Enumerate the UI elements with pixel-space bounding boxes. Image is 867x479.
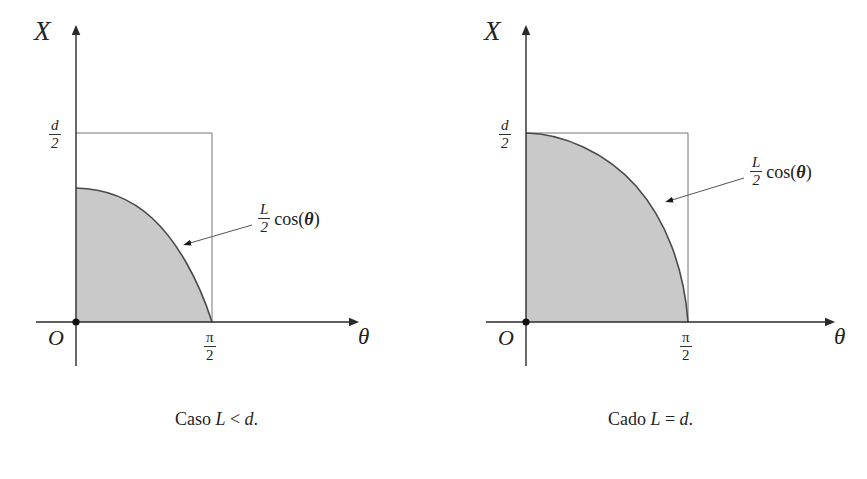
annotation-cos-close: ) — [314, 209, 320, 229]
y-axis-label: X — [34, 18, 51, 45]
panel-caption: Cado L = d. — [434, 409, 867, 430]
annotation-denominator: 2 — [750, 172, 762, 188]
annotation-leader-line — [672, 178, 744, 200]
annotation-numerator: L — [750, 155, 762, 172]
annotation-cos-open: cos( — [274, 209, 304, 229]
caption-prefix: Caso — [175, 409, 216, 429]
origin-point — [522, 318, 529, 325]
x-tick-label-pi-over-2: π 2 — [680, 330, 692, 364]
origin-label: O — [48, 327, 64, 349]
caption-variable-2: d — [680, 409, 689, 429]
annotation-function: cos(θ) — [274, 210, 319, 228]
shaded-region-under-curve — [76, 188, 212, 322]
caption-prefix: Cado — [608, 409, 651, 429]
annotation-numerator: L — [258, 202, 270, 219]
annotation-theta: θ — [796, 162, 805, 182]
x-tick-numerator: π — [204, 330, 216, 347]
annotation-function: cos(θ) — [766, 163, 811, 181]
annotation-denominator: 2 — [258, 219, 270, 235]
caption-relation: < — [225, 409, 244, 429]
figure-root: X d 2 O π 2 θ L 2 cos(θ) — [0, 0, 867, 479]
caption-suffix: . — [689, 409, 694, 429]
y-tick-label-d-over-2: d 2 — [49, 118, 61, 152]
origin-point — [72, 318, 79, 325]
caption-variable-2: d — [245, 409, 254, 429]
annotation-cos-close: ) — [806, 162, 812, 182]
x-axis-label: θ — [358, 325, 369, 348]
y-axis-label: X — [484, 18, 501, 45]
y-tick-numerator: d — [49, 118, 61, 135]
caption-suffix: . — [254, 409, 259, 429]
origin-label: O — [498, 327, 514, 349]
caption-relation: = — [660, 409, 679, 429]
annotation-cos-open: cos( — [766, 162, 796, 182]
y-tick-label-d-over-2: d 2 — [499, 118, 511, 152]
caption-variable-1: L — [215, 409, 225, 429]
panel-case-l-equals-d: X d 2 O π 2 θ L 2 cos(θ) Cado L = d. — [434, 0, 867, 479]
x-axis-label: θ — [834, 325, 845, 348]
panel-case-l-less-than-d: X d 2 O π 2 θ L 2 cos(θ) — [0, 0, 433, 479]
x-tick-denominator: 2 — [680, 347, 692, 363]
y-tick-numerator: d — [499, 118, 511, 135]
y-tick-denominator: 2 — [49, 135, 61, 151]
panel-caption: Caso L < d. — [0, 409, 433, 430]
left-diagram-svg — [0, 0, 433, 479]
annotation-theta: θ — [304, 209, 313, 229]
annotation-leader-line — [190, 225, 252, 243]
curve-annotation-l-over-2-cos-theta: L 2 cos(θ) — [258, 202, 320, 236]
caption-variable-1: L — [650, 409, 660, 429]
x-tick-label-pi-over-2: π 2 — [204, 330, 216, 364]
right-diagram-svg — [434, 0, 867, 479]
y-tick-denominator: 2 — [499, 135, 511, 151]
curve-annotation-l-over-2-cos-theta: L 2 cos(θ) — [750, 155, 812, 189]
x-tick-numerator: π — [680, 330, 692, 347]
x-tick-denominator: 2 — [204, 347, 216, 363]
